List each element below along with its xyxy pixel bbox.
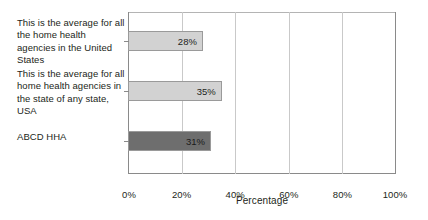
bar-value-label-1: 35% bbox=[197, 86, 221, 97]
plot-area: 28% 35% 31% 0% 20% 40% 60% 80% 100% bbox=[128, 12, 396, 174]
category-label-0: This is the average for all the home hea… bbox=[17, 17, 125, 66]
category-tick-1 bbox=[124, 91, 129, 92]
x-axis-title: Percentage bbox=[128, 195, 396, 206]
category-label-1: This is the average for all home health … bbox=[17, 68, 125, 117]
plot-top-border bbox=[128, 12, 396, 13]
gridline-100 bbox=[395, 12, 396, 174]
gridline-40 bbox=[235, 12, 236, 174]
category-tick-2 bbox=[124, 141, 129, 142]
gridline-60 bbox=[289, 12, 290, 174]
bar-value-label-2: 31% bbox=[186, 136, 210, 147]
category-tick-0 bbox=[124, 41, 129, 42]
x-axis-line bbox=[128, 173, 396, 174]
bar-2: 31% bbox=[128, 131, 211, 151]
gridline-80 bbox=[342, 12, 343, 174]
bar-chart-figure: This is the average for all the home hea… bbox=[0, 0, 428, 220]
bar-value-label-0: 28% bbox=[178, 36, 202, 47]
bar-1: 35% bbox=[128, 81, 222, 101]
category-label-2: ABCD HHA bbox=[17, 131, 125, 143]
bar-0: 28% bbox=[128, 31, 203, 51]
